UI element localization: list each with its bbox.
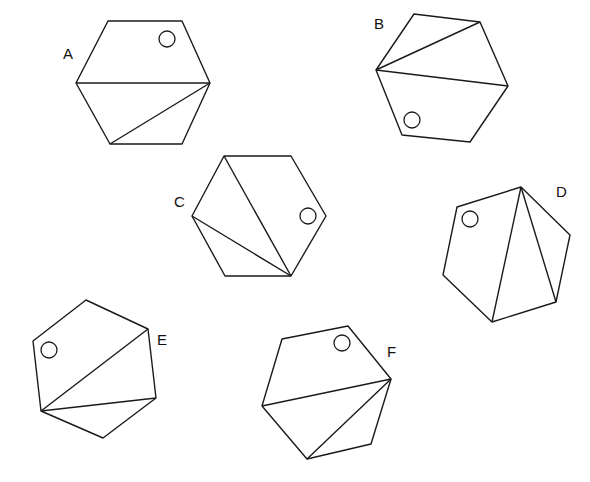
circle-marker-icon	[334, 335, 350, 351]
hexagon-option-d: D	[443, 183, 570, 322]
diagonal-line	[262, 379, 391, 406]
circle-marker-icon	[41, 342, 57, 358]
diagonal-line	[224, 156, 291, 276]
hexagon-option-b: B	[374, 14, 508, 142]
hexagon-option-e: E	[33, 300, 167, 438]
diagonal-line	[41, 398, 156, 411]
option-label: B	[374, 15, 384, 32]
hexagon-puzzle-figure: ABCDEF	[0, 0, 590, 482]
diagonal-line	[110, 83, 210, 144]
hexagon-outline	[33, 300, 156, 438]
circle-marker-icon	[159, 31, 175, 47]
circle-marker-icon	[300, 208, 316, 224]
option-label: D	[556, 183, 567, 200]
diagonal-line	[192, 216, 291, 276]
option-label: F	[387, 343, 396, 360]
option-label: E	[157, 331, 167, 348]
option-label: A	[63, 45, 73, 62]
hexagon-option-c: C	[174, 156, 326, 276]
hexagon-outline	[192, 156, 326, 276]
option-label: C	[174, 193, 185, 210]
circle-marker-icon	[462, 211, 478, 227]
hexagon-option-f: F	[262, 326, 396, 459]
hexagon-option-a: A	[63, 21, 210, 144]
diagonal-line	[492, 187, 521, 322]
diagonal-line	[41, 329, 148, 411]
circle-marker-icon	[404, 112, 420, 128]
diagonal-line	[376, 70, 508, 86]
